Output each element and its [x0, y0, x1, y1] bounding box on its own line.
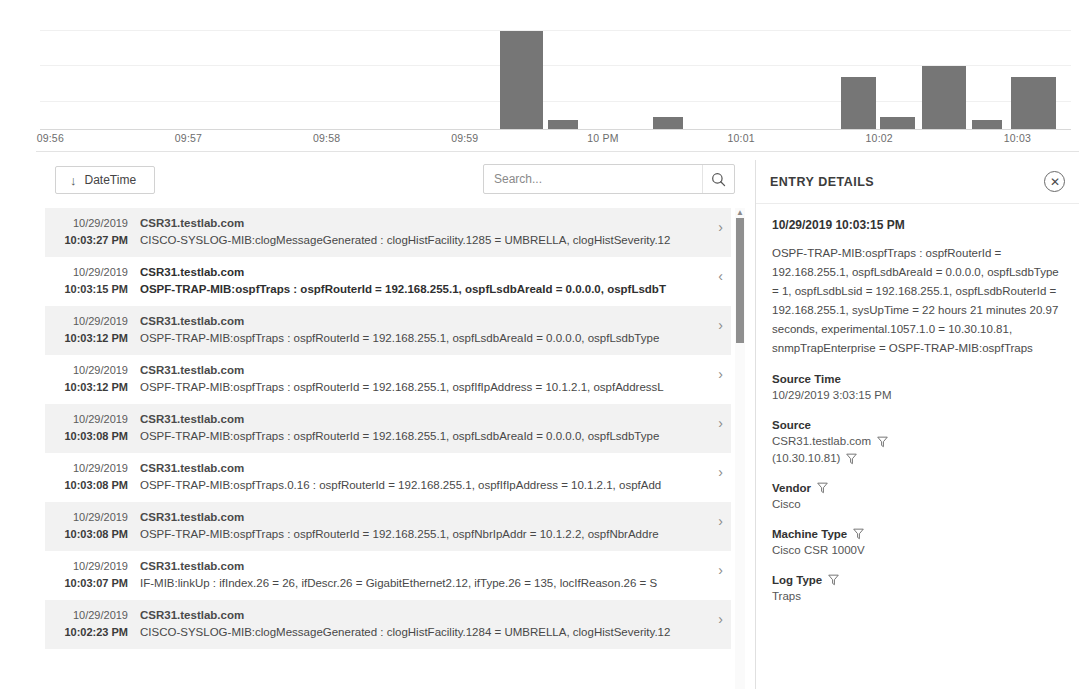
log-row-message: CISCO-SYSLOG-MIB:clogMessageGenerated : … [140, 624, 705, 641]
log-list-item[interactable]: 10/29/201910:02:23 PMCSR31.testlab.comCI… [45, 600, 731, 649]
log-row-body: CSR31.testlab.comOSPF-TRAP-MIB:ospfTraps… [140, 460, 705, 494]
log-row-date: 10/29/2019 [45, 411, 128, 428]
search-input[interactable] [484, 165, 702, 193]
field-value-text: Cisco [772, 496, 801, 513]
collapse-chevron-icon[interactable]: ‹ [718, 269, 723, 283]
entry-detail-field: Log TypeTraps [772, 572, 1063, 605]
x-axis-tick-label: 10:01 [727, 132, 754, 144]
chart-bar[interactable] [880, 117, 915, 129]
entry-detail-field-value: Cisco CSR 1000V [772, 542, 1063, 559]
activity-histogram: 09:5609:5709:5809:5910 PM10:0110:0210:03 [0, 0, 1079, 152]
chart-baseline [40, 129, 1071, 130]
list-toolbar: ↓ DateTime [45, 160, 745, 204]
entry-detail-field-label: Machine Type [772, 526, 1063, 542]
field-value-text: (10.30.10.81) [772, 450, 840, 467]
log-row-body: CSR31.testlab.comOSPF-TRAP-MIB:ospfTraps… [140, 264, 705, 298]
log-list-item[interactable]: 10/29/201910:03:07 PMCSR31.testlab.comIF… [45, 551, 731, 600]
entry-details-panel: ENTRY DETAILS ✕ 10/29/2019 10:03:15 PM O… [755, 160, 1079, 689]
log-row-timestamp: 10/29/201910:03:08 PM [45, 509, 140, 543]
search-icon[interactable] [702, 165, 734, 193]
entry-detail-field-label: Source [772, 417, 1063, 433]
entry-detail-message: OSPF-TRAP-MIB:ospfTraps : ospfRouterId =… [772, 244, 1063, 358]
datetime-sort-button[interactable]: ↓ DateTime [55, 166, 155, 194]
log-list-item[interactable]: 10/29/201910:03:08 PMCSR31.testlab.comOS… [45, 453, 731, 502]
log-list-item[interactable]: 10/29/201910:03:12 PMCSR31.testlab.comOS… [45, 306, 731, 355]
entry-details-title: ENTRY DETAILS [770, 175, 874, 189]
expand-chevron-icon[interactable]: › [718, 612, 723, 626]
log-row-host: CSR31.testlab.com [140, 313, 705, 330]
log-list-item[interactable]: 10/29/201910:03:27 PMCSR31.testlab.comCI… [45, 208, 731, 257]
entry-detail-timestamp: 10/29/2019 10:03:15 PM [772, 218, 1063, 232]
log-row-time: 10:03:12 PM [45, 379, 128, 396]
chart-bar[interactable] [548, 120, 578, 129]
log-list-item[interactable]: 10/29/201910:03:15 PMCSR31.testlab.comOS… [45, 257, 731, 306]
entry-detail-field-value: Cisco [772, 496, 1063, 513]
log-row-message: OSPF-TRAP-MIB:ospfTraps.0.16 : ospfRoute… [140, 477, 705, 494]
datetime-sort-label: DateTime [85, 173, 137, 187]
log-list-item[interactable]: 10/29/201910:03:12 PMCSR31.testlab.comOS… [45, 355, 731, 404]
close-icon[interactable]: ✕ [1044, 171, 1065, 192]
log-row-time: 10:03:15 PM [45, 281, 128, 298]
log-row-host: CSR31.testlab.com [140, 509, 705, 526]
log-row-host: CSR31.testlab.com [140, 264, 705, 281]
expand-chevron-icon[interactable]: › [718, 465, 723, 479]
chart-bar[interactable] [500, 31, 543, 129]
entry-detail-field: Machine TypeCisco CSR 1000V [772, 526, 1063, 559]
filter-funnel-icon[interactable] [828, 574, 839, 586]
filter-funnel-icon[interactable] [877, 436, 888, 448]
field-label-text: Source [772, 417, 811, 433]
expand-chevron-icon[interactable]: › [718, 367, 723, 381]
chart-bar[interactable] [653, 117, 683, 129]
scrollbar-thumb[interactable] [736, 218, 744, 343]
expand-chevron-icon[interactable]: › [718, 563, 723, 577]
chart-bar[interactable] [922, 66, 966, 129]
log-list-rows: 10/29/201910:03:27 PMCSR31.testlab.comCI… [45, 208, 731, 649]
log-row-timestamp: 10/29/201910:03:08 PM [45, 411, 140, 445]
filter-funnel-icon[interactable] [817, 482, 828, 494]
log-row-date: 10/29/2019 [45, 215, 128, 232]
chart-bar[interactable] [972, 120, 1002, 129]
log-row-time: 10:03:08 PM [45, 477, 128, 494]
log-row-host: CSR31.testlab.com [140, 362, 705, 379]
log-row-message: OSPF-TRAP-MIB:ospfTraps : ospfRouterId =… [140, 281, 705, 298]
chart-plot-area [40, 12, 1071, 130]
log-list-item[interactable]: 10/29/201910:03:08 PMCSR31.testlab.comOS… [45, 502, 731, 551]
log-row-time: 10:03:12 PM [45, 330, 128, 347]
log-row-timestamp: 10/29/201910:03:07 PM [45, 558, 140, 592]
filter-funnel-icon[interactable] [853, 528, 864, 540]
chart-bar[interactable] [1011, 77, 1055, 129]
log-list-scrollbar[interactable]: ▲ [735, 208, 745, 689]
log-row-timestamp: 10/29/201910:03:08 PM [45, 460, 140, 494]
log-row-host: CSR31.testlab.com [140, 215, 705, 232]
log-row-message: CISCO-SYSLOG-MIB:clogMessageGenerated : … [140, 232, 705, 249]
x-axis-tick-label: 09:58 [313, 132, 340, 144]
log-row-body: CSR31.testlab.comOSPF-TRAP-MIB:ospfTraps… [140, 411, 705, 445]
scroll-up-arrow-icon[interactable]: ▲ [735, 208, 745, 217]
log-row-message: OSPF-TRAP-MIB:ospfTraps : ospfRouterId =… [140, 428, 705, 445]
entry-detail-field-value: (10.30.10.81) [772, 450, 1063, 467]
log-row-date: 10/29/2019 [45, 607, 128, 624]
expand-chevron-icon[interactable]: › [718, 514, 723, 528]
field-label-text: Machine Type [772, 526, 847, 542]
gridline-2 [40, 101, 1071, 102]
log-row-message: IF-MIB:linkUp : ifIndex.26 = 26, ifDescr… [140, 575, 705, 592]
chart-x-axis: 09:5609:5709:5809:5910 PM10:0110:0210:03 [40, 132, 1071, 150]
chart-bar[interactable] [841, 77, 876, 129]
expand-chevron-icon[interactable]: › [718, 318, 723, 332]
log-row-time: 10:03:08 PM [45, 526, 128, 543]
log-row-message: OSPF-TRAP-MIB:ospfTraps : ospfRouterId =… [140, 379, 705, 396]
chart-bottom-divider [36, 151, 1079, 152]
log-row-date: 10/29/2019 [45, 313, 128, 330]
log-row-body: CSR31.testlab.comOSPF-TRAP-MIB:ospfTraps… [140, 362, 705, 396]
log-row-time: 10:03:08 PM [45, 428, 128, 445]
expand-chevron-icon[interactable]: › [718, 416, 723, 430]
entry-detail-field-value: Traps [772, 588, 1063, 605]
field-value-text: CSR31.testlab.com [772, 433, 871, 450]
field-value-text: Traps [772, 588, 801, 605]
x-axis-tick-label: 09:57 [175, 132, 202, 144]
expand-chevron-icon[interactable]: › [718, 220, 723, 234]
filter-funnel-icon[interactable] [846, 453, 857, 465]
sort-descending-icon: ↓ [70, 174, 77, 187]
log-list-item[interactable]: 10/29/201910:03:08 PMCSR31.testlab.comOS… [45, 404, 731, 453]
log-row-message: OSPF-TRAP-MIB:ospfTraps : ospfRouterId =… [140, 526, 705, 543]
